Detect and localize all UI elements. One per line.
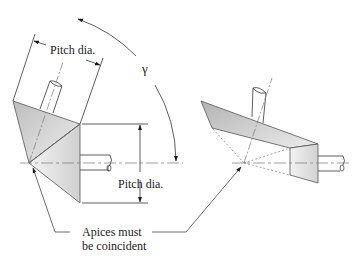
bevel-gear-diagram [0, 0, 362, 256]
pitch-dia-right-label: Pitch dia. [118, 178, 163, 191]
right-upper-gear-face [201, 101, 318, 148]
right-gear-pair [201, 78, 350, 183]
apices-leader-right [152, 167, 241, 232]
apices-label: Apices must be coincident [82, 225, 146, 253]
pitch-dia-top-label: Pitch dia. [50, 44, 95, 57]
apices-label-line1: Apices must [82, 225, 146, 239]
gamma-label: γ [142, 62, 148, 75]
right-lower-gear-face [290, 144, 318, 183]
apices-label-line2: be coincident [82, 239, 146, 253]
right-pitch-dia-dimension [82, 124, 148, 203]
gamma-angle-arc [78, 19, 176, 161]
right-lower-shaft [318, 156, 345, 171]
